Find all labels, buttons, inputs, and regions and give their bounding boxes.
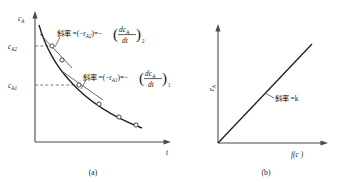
panel-a-annotation-lower: 斜率 =(−rA1)=− ( dcA dt ) 1	[83, 69, 171, 89]
panel-a-annotation-lower-numerator: dcA	[145, 69, 156, 79]
panel-a-annotation-lower-paren-sub: 1	[168, 82, 171, 88]
panel-a: cA t cA2 cA1	[8, 11, 171, 177]
panel-a-annotation-upper: 斜率 =(−rA2)=− ( dcA dt ) 2	[57, 25, 145, 45]
panel-a-data-point	[134, 123, 138, 127]
panel-a-caption: (a)	[89, 168, 98, 177]
panel-b: rA f(c ) 斜率 =k (b)	[207, 24, 328, 177]
panel-a-annotation-upper-paren-close: )	[136, 26, 141, 43]
panel-a-tick-label-ca2: cA2	[8, 42, 17, 52]
panel-b-caption: (b)	[262, 168, 271, 177]
panel-a-data-point	[60, 58, 64, 62]
figure-svg: cA t cA2 cA1	[0, 0, 347, 182]
panel-b-leader	[265, 93, 274, 98]
panel-a-leader-upper	[55, 37, 60, 47]
panel-a-tick-label-ca1: cA1	[8, 81, 17, 91]
panel-a-data-point	[77, 83, 81, 87]
panel-b-y-axis	[215, 24, 220, 143]
panel-b-y-axis-label: rA	[207, 84, 217, 91]
panel-b-annotation-eq: =k	[291, 94, 299, 103]
panel-a-annotation-lower-denominator: dt	[148, 80, 155, 89]
panel-a-annotation-upper-cjk: 斜率	[57, 29, 71, 38]
panel-a-y-axis-label: cA	[18, 14, 25, 24]
figure-root: cA t cA2 cA1	[0, 0, 347, 182]
panel-b-annotation: 斜率 =k	[275, 94, 299, 103]
panel-b-x-axis-label: f(c )	[291, 150, 304, 159]
panel-b-x-axis	[218, 140, 328, 145]
panel-a-annotation-upper-eq1: =(−rA2)=−	[73, 29, 103, 39]
panel-a-y-axis	[32, 11, 37, 142]
panel-a-annotation-lower-eq1: =(−rA1)=−	[99, 73, 129, 83]
panel-a-annotation-upper-numerator: dcA	[119, 25, 130, 35]
panel-a-annotation-upper-paren-open: (	[113, 26, 118, 43]
panel-a-data-point	[50, 44, 54, 48]
panel-a-annotation-lower-cjk: 斜率	[83, 73, 97, 82]
panel-a-annotation-lower-paren-close: )	[162, 70, 167, 87]
panel-a-annotation-upper-denominator: dt	[122, 36, 129, 45]
panel-a-data-point	[117, 115, 121, 119]
panel-a-annotation-upper-paren-sub: 2	[142, 38, 145, 44]
panel-a-x-axis	[35, 139, 171, 144]
panel-a-annotation-lower-paren-open: (	[139, 70, 144, 87]
panel-b-annotation-cjk: 斜率	[275, 94, 289, 103]
panel-a-data-point	[97, 102, 101, 106]
panel-a-x-axis-label: t	[166, 148, 169, 157]
